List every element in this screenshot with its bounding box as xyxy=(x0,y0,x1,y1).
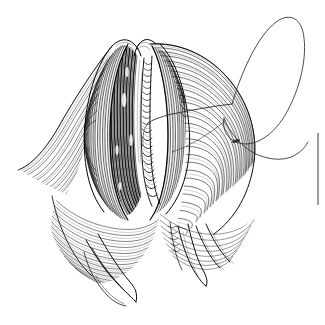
figure-background xyxy=(0,0,325,325)
anatomical-illustration: Anatomical pen-and-ink line illustration xyxy=(0,0,325,325)
figure-canvas: Anatomical pen-and-ink line illustration xyxy=(0,0,325,325)
